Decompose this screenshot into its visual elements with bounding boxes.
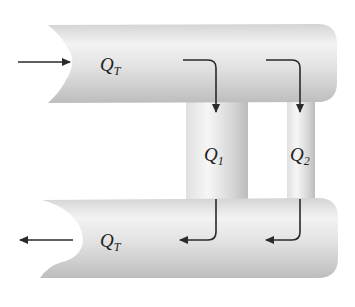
bottom-pipe xyxy=(40,198,338,278)
inlet-flow-label: QT xyxy=(100,55,120,77)
branch-2-flow-label: Q2 xyxy=(290,145,310,167)
label-symbol: Q xyxy=(100,230,114,251)
branch-1-flow-label: Q1 xyxy=(204,145,224,167)
label-subscript: 1 xyxy=(218,154,224,168)
outlet-flow-label: QT xyxy=(100,231,120,253)
label-subscript: T xyxy=(114,240,121,254)
label-symbol: Q xyxy=(204,144,218,165)
top-pipe xyxy=(48,24,337,103)
label-symbol: Q xyxy=(100,54,114,75)
label-subscript: T xyxy=(114,64,121,78)
label-subscript: 2 xyxy=(304,154,310,168)
label-symbol: Q xyxy=(290,144,304,165)
